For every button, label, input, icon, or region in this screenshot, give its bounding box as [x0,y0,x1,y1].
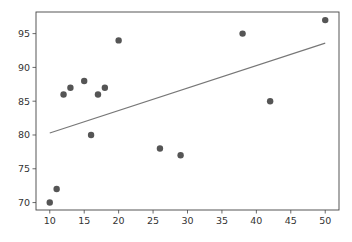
x-tick-label: 30 [181,215,193,226]
data-points [47,17,329,206]
data-point [239,30,245,36]
data-point [88,132,94,138]
x-tick-label: 45 [285,215,297,226]
data-point [95,91,101,97]
data-point [177,152,183,158]
x-axis-ticks: 101520253035404550 [44,210,332,226]
x-tick-label: 25 [147,215,159,226]
x-tick-label: 10 [44,215,56,226]
x-tick-label: 35 [216,215,228,226]
data-point [47,199,53,205]
y-axis-ticks: 707580859095 [18,28,36,208]
data-point [53,186,59,192]
data-point [322,17,328,23]
data-point [267,98,273,104]
y-tick-label: 90 [18,62,30,73]
data-point [67,84,73,90]
y-tick-label: 70 [18,197,30,208]
scatter-chart: 101520253035404550 707580859095 [0,0,352,242]
x-tick-label: 20 [113,215,125,226]
x-tick-label: 50 [319,215,331,226]
data-point [60,91,66,97]
y-tick-label: 80 [18,129,30,140]
fit-line-path [50,43,325,133]
data-point [102,84,108,90]
x-tick-label: 40 [250,215,262,226]
data-point [157,145,163,151]
regression-line [50,43,325,133]
data-point [115,37,121,43]
data-point [81,78,87,84]
x-tick-label: 15 [78,215,90,226]
axes-frame [36,12,339,210]
y-tick-label: 95 [18,28,30,39]
y-tick-label: 75 [18,163,30,174]
y-tick-label: 85 [18,96,30,107]
